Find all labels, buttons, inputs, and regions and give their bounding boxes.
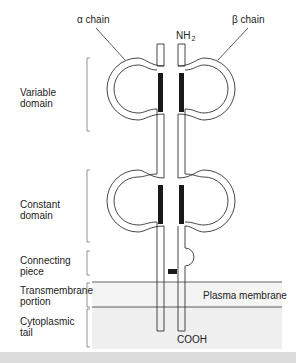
region-label-line: portion [20, 296, 93, 307]
alpha-pointer-line [96, 28, 125, 60]
region-label-transmembrane: Transmembraneportion [20, 285, 93, 307]
region-label-line: Constant [20, 199, 60, 210]
n-terminus-main: NH [176, 30, 190, 41]
n-terminus-label: NH2 [176, 30, 195, 44]
tcr-diagram: α chain β chain NH2 Variabledomain Const… [0, 0, 296, 363]
region-label-line: piece [20, 266, 71, 277]
beta-constant-disulfide [179, 185, 184, 224]
region-label-line: Transmembrane [20, 285, 93, 296]
region-label-variable: Variabledomain [20, 87, 56, 109]
beta-variable-disulfide [179, 73, 184, 112]
plasma-membrane-label: Plasma membrane [203, 290, 287, 301]
region-label-line: Cytoplasmic [20, 316, 74, 327]
region-label-line: Variable [20, 87, 56, 98]
region-label-connecting: Connectingpiece [20, 255, 71, 277]
region-label-line: Connecting [20, 255, 71, 266]
region-label-constant: Constantdomain [20, 199, 60, 221]
region-label-line: domain [20, 210, 60, 221]
n-terminus-subscript: 2 [191, 35, 195, 42]
c-terminus-label: COOH [177, 334, 207, 345]
alpha-constant-disulfide [158, 185, 163, 224]
alpha-variable-disulfide [158, 73, 163, 112]
beta-chain-label: β chain [232, 14, 264, 25]
bracket-constant [87, 170, 90, 242]
tcr-structure-drawing [0, 0, 296, 363]
region-label-line: tail [20, 327, 74, 338]
interchain-disulfide [168, 269, 177, 274]
region-label-cytoplasmic: Cytoplasmictail [20, 316, 74, 338]
disulfide-bonds [158, 73, 184, 274]
bracket-connecting [87, 251, 90, 275]
bracket-cytoplasmic [87, 309, 90, 347]
beta-pointer-line [218, 28, 248, 60]
bracket-variable [87, 58, 90, 131]
bottom-strip [0, 352, 296, 363]
region-label-line: domain [20, 98, 56, 109]
alpha-chain-label: α chain [77, 14, 109, 25]
